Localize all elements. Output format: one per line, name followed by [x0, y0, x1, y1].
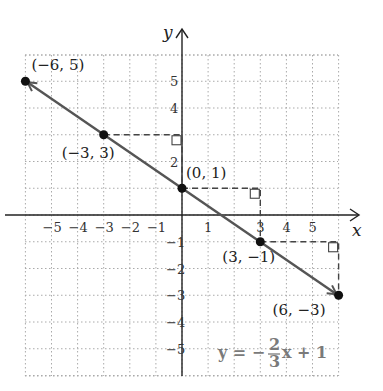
equation-suffix: x + 1: [282, 343, 327, 362]
x-tick-label: −5: [43, 220, 62, 235]
line-graph: x y −5−4−3−2−11345542−1−2−3−4−5 (−6, 5)(…: [0, 0, 383, 391]
equation-prefix: y = −: [217, 343, 265, 362]
data-point: [334, 291, 343, 300]
point-label: (0, 1): [186, 164, 226, 182]
y-axis-label: y: [162, 22, 173, 42]
y-tick-label: −5: [166, 342, 185, 357]
x-tick-label: 5: [309, 220, 317, 235]
y-tick-label: 2: [170, 155, 178, 170]
point-label: (3, −1): [222, 248, 275, 266]
data-point: [21, 77, 30, 86]
data-point: [99, 130, 108, 139]
point-label: (−3, 3): [62, 144, 115, 162]
y-tick-label: −1: [166, 235, 185, 250]
equation-label: y = − 2 3 x + 1: [217, 335, 327, 371]
equation-denominator: 3: [269, 352, 280, 371]
y-tick-label: 4: [170, 101, 178, 116]
y-tick-label: −3: [166, 288, 185, 303]
x-tick-label: −4: [69, 220, 88, 235]
right-angle-icon: [250, 189, 259, 198]
data-point: [256, 237, 265, 246]
x-tick-label: −1: [147, 220, 166, 235]
right-angle-icon: [172, 136, 181, 145]
x-tick-label: 4: [282, 220, 290, 235]
data-point: [178, 184, 187, 193]
y-tick-label: −4: [166, 315, 185, 330]
point-label: (6, −3): [273, 301, 326, 319]
x-tick-label: −3: [95, 220, 114, 235]
y-tick-label: 5: [170, 74, 178, 89]
y-tick-label: −2: [166, 262, 185, 277]
x-tick-label: −2: [121, 220, 140, 235]
point-label: (−6, 5): [31, 56, 84, 74]
x-axis-label: x: [352, 220, 362, 240]
x-tick-label: 1: [204, 220, 212, 235]
right-angle-icon: [329, 243, 338, 252]
